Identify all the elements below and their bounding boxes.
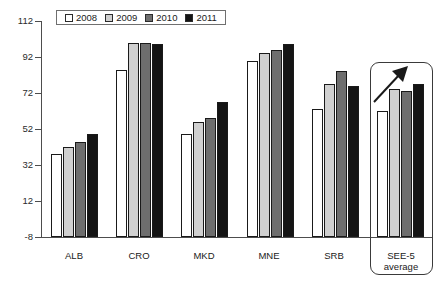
y-tick-mark-112: [35, 21, 41, 22]
y-tick-label-32: 32: [0, 160, 33, 170]
y-tick-label-72: 72: [0, 88, 33, 98]
bar-mne-2008: [247, 61, 258, 237]
bar-group-mkd: [172, 21, 237, 237]
y-tick-label-12: 12: [0, 196, 33, 206]
bar-alb-2009: [63, 147, 74, 237]
bar-alb-2011: [87, 134, 98, 237]
bar-srb-2008: [312, 109, 323, 237]
category-label-mkd: MKD: [178, 250, 230, 261]
category-label-alb: ALB: [48, 250, 100, 261]
bar-group-alb: [42, 21, 107, 237]
bar-srb-2011: [348, 86, 359, 237]
y-tick-label-52: 52: [0, 124, 33, 134]
bar-group-mne: [238, 21, 303, 237]
y-tick-label-92: 92: [0, 52, 33, 62]
category-label-see5-line1: SEE-5: [387, 250, 414, 261]
category-label-see5: SEE-5 average: [373, 250, 429, 272]
bar-chart: 112 92 72 52 32 12 -8 2008 2009 2010 201…: [0, 0, 442, 291]
bar-group-cro: [107, 21, 172, 237]
category-label-mne: MNE: [243, 250, 295, 261]
bar-mne-2010: [271, 50, 282, 237]
bar-alb-2010: [75, 142, 86, 237]
bar-cro-2011: [152, 44, 163, 237]
bar-srb-2009: [324, 84, 335, 237]
y-tick-label-112: 112: [0, 16, 33, 26]
y-tick-mark-12: [35, 201, 41, 202]
bar-cro-2009: [128, 43, 139, 237]
category-label-srb: SRB: [308, 250, 360, 261]
bar-mne-2011: [283, 44, 294, 237]
y-tick-mark-72: [35, 93, 41, 94]
bar-srb-2010: [336, 71, 347, 237]
see5-highlight-box: [370, 62, 433, 275]
bar-mne-2009: [259, 53, 270, 237]
bar-mkd-2009: [193, 122, 204, 237]
bar-mkd-2008: [181, 134, 192, 237]
category-label-see5-line2: average: [373, 261, 429, 272]
bar-mkd-2011: [217, 102, 228, 237]
bar-group-srb: [303, 21, 368, 237]
y-tick-label-neg8: -8: [0, 232, 33, 242]
y-tick-mark-92: [35, 57, 41, 58]
category-label-cro: CRO: [113, 250, 165, 261]
y-tick-mark-32: [35, 165, 41, 166]
bar-cro-2010: [140, 43, 151, 237]
bar-mkd-2010: [205, 118, 216, 237]
bar-alb-2008: [51, 154, 62, 237]
y-tick-mark-neg8: [35, 237, 41, 238]
y-tick-mark-52: [35, 129, 41, 130]
bar-cro-2008: [116, 70, 127, 237]
